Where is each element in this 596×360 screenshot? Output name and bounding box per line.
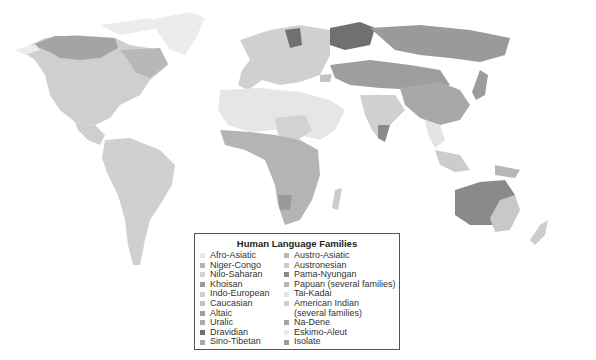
region-japan [472,70,488,100]
region-new-guinea [495,165,520,178]
region-siberia [370,25,510,62]
swatch-icon [200,320,205,325]
swatch-icon [284,330,289,335]
swatch-icon [284,253,289,258]
swatch-icon [200,330,205,335]
swatch-icon [200,340,205,345]
region-sino-tibetan [400,82,470,125]
swatch-icon [284,272,289,277]
swatch-icon [200,282,205,287]
legend: Human Language Families Afro-Asiatic Nig… [194,233,400,350]
region-uralic-russia [330,22,375,50]
swatch-icon [200,292,205,297]
legend-title: Human Language Families [195,238,399,249]
swatch-icon [284,301,289,306]
region-niger-congo [220,130,320,225]
swatch-icon [284,320,289,325]
swatch-icon [284,282,289,287]
swatch-icon [284,263,289,268]
swatch-icon [284,340,289,345]
swatch-icon [284,292,289,297]
region-arctic-islands [100,18,160,35]
legend-column-right: Austro-Asiatic Austronesian Pama-Nyungan… [284,251,396,347]
region-austronesia [435,150,470,172]
region-south-america [102,138,175,265]
region-new-zealand [530,220,548,245]
swatch-icon [200,311,205,316]
swatch-icon [200,272,205,277]
legend-column-left: Afro-Asiatic Niger-Congo Nilo-Saharan Kh… [200,251,270,347]
swatch-icon [200,253,205,258]
region-caucasus [320,74,332,82]
region-central-america [75,122,105,145]
swatch-icon [200,301,205,306]
region-europe [238,25,330,90]
region-madagascar [332,188,342,210]
region-khoisan [278,195,292,210]
swatch-icon [200,263,205,268]
legend-item-sino-tibetan: Sino-Tibetan [200,337,270,347]
legend-item-isolate: Isolate [284,337,396,347]
